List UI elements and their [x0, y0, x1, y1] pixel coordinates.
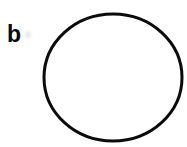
figure-panel: b — [0, 0, 187, 147]
circle-outline — [44, 14, 182, 141]
circle-diagram — [0, 0, 187, 147]
